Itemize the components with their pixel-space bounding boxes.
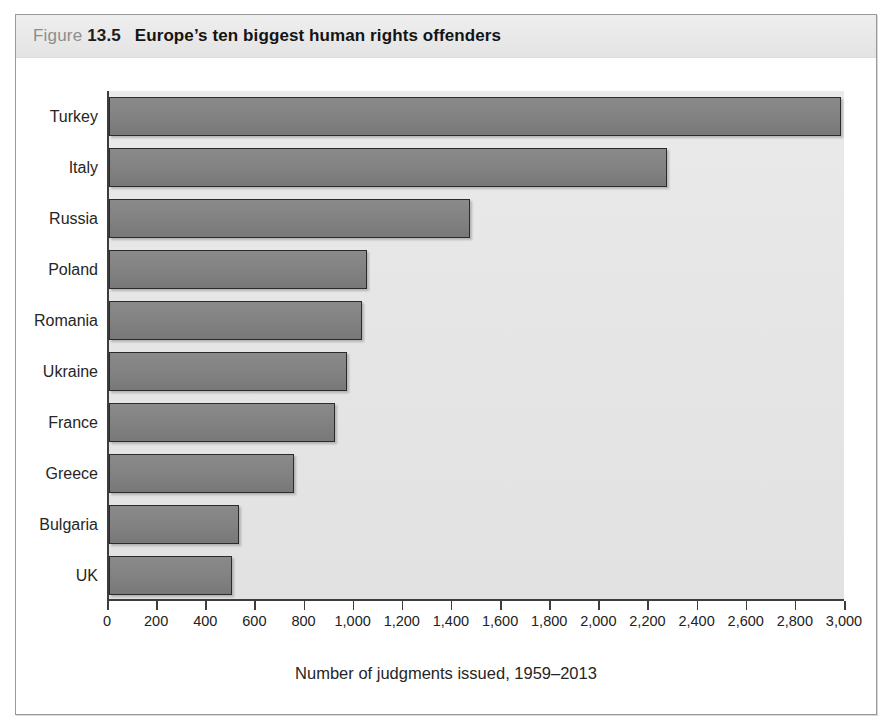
x-axis-tick-label: 200 bbox=[144, 613, 168, 629]
bar-russia[interactable] bbox=[109, 199, 470, 238]
x-axis-tick-label: 2,000 bbox=[580, 613, 616, 629]
x-axis-tick bbox=[746, 601, 748, 610]
x-axis-tick-label: 600 bbox=[242, 613, 266, 629]
y-axis-tick-label: Romania bbox=[34, 301, 98, 340]
y-axis-tick-label: Turkey bbox=[50, 97, 98, 136]
bar-ukraine[interactable] bbox=[109, 352, 347, 391]
x-axis-tick bbox=[844, 601, 846, 610]
bar-greece[interactable] bbox=[109, 454, 294, 493]
y-axis-tick-label: Russia bbox=[49, 199, 98, 238]
bar-uk[interactable] bbox=[109, 556, 232, 595]
x-axis-tick-label: 1,200 bbox=[384, 613, 420, 629]
bar-row: Russia bbox=[109, 193, 844, 244]
plot-area: TurkeyItalyRussiaPolandRomaniaUkraineFra… bbox=[107, 91, 844, 601]
y-axis-tick-label: Poland bbox=[48, 250, 98, 289]
x-axis-tick bbox=[500, 601, 502, 610]
x-axis-tick bbox=[156, 601, 158, 610]
x-axis-tick-label: 1,000 bbox=[335, 613, 371, 629]
x-axis-tick-label: 2,800 bbox=[777, 613, 813, 629]
y-axis-tick-label: UK bbox=[76, 556, 98, 595]
bar-row: Greece bbox=[109, 448, 844, 499]
x-axis-tick bbox=[647, 601, 649, 610]
x-axis-tick-label: 3,000 bbox=[826, 613, 862, 629]
x-axis-tick-label: 1,400 bbox=[433, 613, 469, 629]
x-axis-tick bbox=[549, 601, 551, 610]
x-axis-tick-label: 1,600 bbox=[482, 613, 518, 629]
bar-row: UK bbox=[109, 550, 844, 601]
bar-turkey[interactable] bbox=[109, 97, 841, 136]
bar-italy[interactable] bbox=[109, 148, 667, 187]
figure-container: Figure 13.5 Europe’s ten biggest human r… bbox=[15, 14, 877, 715]
bar-row: Italy bbox=[109, 142, 844, 193]
bar-row: Romania bbox=[109, 295, 844, 346]
bar-row: France bbox=[109, 397, 844, 448]
figure-caption: Europe’s ten biggest human rights offend… bbox=[135, 26, 501, 45]
x-axis-tick bbox=[598, 601, 600, 610]
page-title: Figure 13.5 Europe’s ten biggest human r… bbox=[33, 25, 501, 47]
figure-label-word: Figure bbox=[33, 26, 82, 45]
x-axis-tick bbox=[697, 601, 699, 610]
y-axis-tick-label: Italy bbox=[69, 148, 98, 187]
x-axis-tick bbox=[353, 601, 355, 610]
bar-row: Poland bbox=[109, 244, 844, 295]
x-axis-tick bbox=[402, 601, 404, 610]
x-axis-tick bbox=[304, 601, 306, 610]
bar-romania[interactable] bbox=[109, 301, 362, 340]
bar-bulgaria[interactable] bbox=[109, 505, 239, 544]
x-axis-tick-label: 400 bbox=[193, 613, 217, 629]
chart-canvas: TurkeyItalyRussiaPolandRomaniaUkraineFra… bbox=[16, 58, 876, 716]
x-axis-tick-label: 2,400 bbox=[678, 613, 714, 629]
bar-poland[interactable] bbox=[109, 250, 367, 289]
x-axis: 02004006008001,0001,2001,4001,6001,8002,… bbox=[107, 601, 844, 661]
x-axis-tick-label: 2,200 bbox=[629, 613, 665, 629]
y-axis-tick-label: France bbox=[48, 403, 98, 442]
x-axis-tick bbox=[205, 601, 207, 610]
x-axis-tick-label: 2,600 bbox=[728, 613, 764, 629]
y-axis-tick-label: Greece bbox=[46, 454, 98, 493]
figure-number: 13.5 bbox=[87, 26, 121, 45]
x-axis-tick-label: 800 bbox=[291, 613, 315, 629]
x-axis-tick bbox=[795, 601, 797, 610]
bar-row: Bulgaria bbox=[109, 499, 844, 550]
bar-france[interactable] bbox=[109, 403, 335, 442]
figure-title-bar: Figure 13.5 Europe’s ten biggest human r… bbox=[16, 15, 876, 58]
x-axis-tick bbox=[107, 601, 109, 610]
x-axis-tick bbox=[451, 601, 453, 610]
x-axis-tick-label: 1,800 bbox=[531, 613, 567, 629]
y-axis-tick-label: Bulgaria bbox=[39, 505, 98, 544]
x-axis-tick-label: 0 bbox=[103, 613, 111, 629]
bar-row: Ukraine bbox=[109, 346, 844, 397]
x-axis-tick bbox=[254, 601, 256, 610]
x-axis-caption: Number of judgments issued, 1959–2013 bbox=[16, 664, 876, 683]
bar-row: Turkey bbox=[109, 91, 844, 142]
y-axis-tick-label: Ukraine bbox=[43, 352, 98, 391]
